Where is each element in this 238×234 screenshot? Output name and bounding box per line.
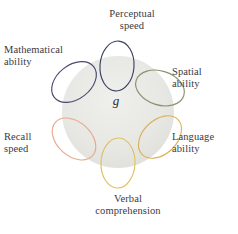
- center-g-label: g: [104, 93, 128, 109]
- label-mathematical-ability: Mathematical ability: [4, 44, 82, 68]
- label-spatial-ability: Spatial ability: [172, 66, 234, 90]
- g-factor-diagram: g Perceptual speed Mathematical ability …: [0, 0, 238, 234]
- label-verbal-comprehension: Verbal comprehension: [78, 193, 178, 217]
- label-perceptual-speed: Perceptual speed: [95, 8, 169, 32]
- label-language-ability: Language ability: [172, 131, 236, 155]
- general-intelligence-circle: [62, 56, 174, 168]
- label-recall-speed: Recall speed: [4, 131, 54, 155]
